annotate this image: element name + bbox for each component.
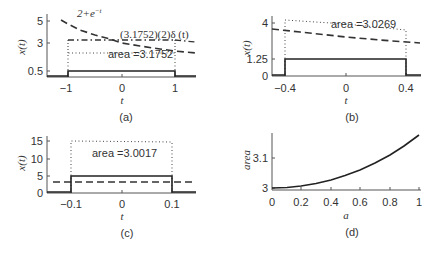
x-label: t <box>120 94 124 106</box>
xtick: 0 <box>343 82 349 94</box>
xtick: 1 <box>172 82 178 94</box>
pulse <box>47 176 196 192</box>
xtick: 0.6 <box>352 196 367 208</box>
ytick: 15 <box>31 135 43 147</box>
caption: (c) <box>121 227 134 239</box>
y-label: x(t) <box>240 40 253 57</box>
panel-a: 5 3 0.5 −1 0 1 t x(t) (a) 2+e−t (3.1752)… <box>15 7 196 123</box>
xtick: −0.1 <box>60 198 82 210</box>
area-label: area =3.0269 <box>331 18 396 30</box>
xtick: 0.4 <box>323 196 338 208</box>
xtick: 0.4 <box>398 82 413 94</box>
xtick: 1 <box>416 196 422 208</box>
xtick: 0.1 <box>164 198 179 210</box>
area-label: area =3.0017 <box>92 147 157 159</box>
x-label: t <box>120 210 124 222</box>
caption: (b) <box>345 111 358 123</box>
curve-label: 2+e−t <box>77 7 103 19</box>
x-label: t <box>344 94 348 106</box>
ytick: 5 <box>37 15 43 27</box>
y-label: x(t) <box>15 39 28 56</box>
curve-exp <box>272 29 420 43</box>
panel-c: 15 10 5 0 −0.1 0 0.1 t x(t) (c) area =3.… <box>15 135 196 239</box>
xtick: 0.8 <box>382 196 397 208</box>
ytick: 0 <box>262 70 268 82</box>
ytick: 0.5 <box>28 65 43 77</box>
y-label: x(t) <box>15 155 28 172</box>
ytick: 3.1 <box>253 152 268 164</box>
ytick: 3 <box>37 37 43 49</box>
caption: (d) <box>345 226 358 238</box>
xtick: 0 <box>119 82 125 94</box>
ytick: 4 <box>262 17 268 29</box>
xtick: 0.2 <box>293 196 308 208</box>
xtick: −1 <box>60 82 73 94</box>
pulse <box>272 59 421 75</box>
delta-label: (3.1752)(2)δ (t) <box>120 28 189 41</box>
xtick: 0 <box>269 196 275 208</box>
ytick: 0 <box>37 187 43 199</box>
y-label: area <box>240 150 252 170</box>
ytick: 10 <box>31 153 43 165</box>
ytick: 5 <box>37 170 43 182</box>
xtick: 0 <box>119 198 125 210</box>
figure: 5 3 0.5 −1 0 1 t x(t) (a) 2+e−t (3.1752)… <box>0 0 434 253</box>
caption: (a) <box>119 111 132 123</box>
panel-d: 3.1 3 0 0.2 0.4 0.6 0.8 1 a area (d) <box>240 133 422 238</box>
panel-b: 4 1.25 0 −0.4 0 0.4 t x(t) (b) area =3.0… <box>240 16 421 123</box>
area-label: area =3.1752 <box>108 48 173 60</box>
area-curve <box>272 135 419 188</box>
xtick: −0.4 <box>274 82 296 94</box>
x-label: a <box>343 209 349 221</box>
ytick: 3 <box>262 182 268 194</box>
